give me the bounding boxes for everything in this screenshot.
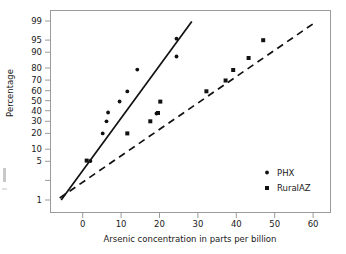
x-axis-ticks — [83, 213, 313, 219]
data-point — [101, 132, 105, 136]
y-tick-label-70: 70 — [20, 76, 42, 85]
x-axis-label: Arsenic concentration in parts per billi… — [50, 234, 330, 244]
data-point — [158, 100, 162, 104]
data-point — [175, 37, 179, 41]
x-tick-label-60: 60 — [301, 220, 325, 229]
x-tick-label-0: 0 — [71, 220, 95, 229]
data-point — [148, 119, 152, 123]
plot-canvas — [0, 0, 346, 254]
y-tick-label-50: 50 — [20, 97, 42, 106]
y-tick-label-10: 10 — [20, 145, 42, 154]
x-tick-label-40: 40 — [224, 220, 248, 229]
data-point — [247, 56, 251, 60]
data-point — [125, 131, 129, 135]
page-edge-artifact-2 — [2, 188, 7, 190]
data-point — [85, 159, 89, 163]
y-tick-label-90: 90 — [20, 48, 42, 57]
x-tick-label-20: 20 — [148, 220, 172, 229]
data-point — [204, 89, 208, 93]
legend-markers — [265, 171, 269, 190]
x-tick-label-50: 50 — [263, 220, 287, 229]
data-point — [224, 79, 228, 83]
y-tick-label-95: 95 — [20, 36, 42, 45]
data-point — [89, 159, 93, 163]
y-tick-label-60: 60 — [20, 87, 42, 96]
x-tick-label-30: 30 — [186, 220, 210, 229]
data-point — [261, 38, 265, 42]
data-point — [135, 68, 139, 72]
data-point — [125, 90, 129, 94]
data-point — [175, 55, 179, 59]
y-tick-label-5: 5 — [20, 157, 42, 166]
y-tick-label-20: 20 — [20, 129, 42, 138]
y-tick-label-99: 99 — [20, 17, 42, 26]
y-tick-label-30: 30 — [20, 117, 42, 126]
x-tick-label-10: 10 — [109, 220, 133, 229]
legend-marker-phx — [265, 171, 269, 175]
y-tick-label-40: 40 — [20, 107, 42, 116]
data-point — [156, 111, 160, 115]
data-point — [231, 68, 235, 72]
y-axis-label: Percentage — [5, 61, 15, 125]
legend-marker-ruralaz — [265, 186, 269, 190]
data-point — [105, 119, 109, 123]
data-point — [118, 100, 122, 104]
data-point — [106, 111, 110, 115]
page-edge-artifact — [3, 168, 6, 182]
y-tick-label-1: 1 — [20, 196, 42, 205]
probability-plot-figure: 99 95 90 80 70 60 50 40 30 20 10 5 1 0 1… — [0, 0, 346, 254]
phx-fit-line — [61, 22, 192, 201]
legend-label-phx: PHX — [277, 168, 294, 178]
y-tick-label-80: 80 — [20, 64, 42, 73]
legend-label-ruralaz: RuralAZ — [277, 183, 311, 193]
